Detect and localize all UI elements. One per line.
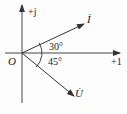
- imaginary-axis-label: +j: [28, 7, 36, 17]
- phasor-diagram: +j +1 O İ U̇ 30° 45°: [0, 0, 127, 114]
- voltage-phasor-label: U̇: [75, 88, 83, 99]
- real-axis-label: +1: [111, 57, 122, 67]
- current-phasor-label: İ: [87, 14, 91, 25]
- lower-angle-label: 45°: [48, 57, 62, 67]
- upper-angle-label: 30°: [49, 42, 63, 52]
- phasor-svg: [0, 0, 127, 114]
- origin-label: O: [8, 56, 16, 67]
- angle-arc: [36, 43, 42, 67]
